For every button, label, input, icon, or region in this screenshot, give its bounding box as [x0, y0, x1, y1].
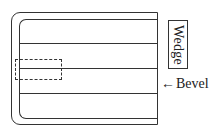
dashed-region [15, 59, 62, 80]
wedge-label-box: Wedge [168, 20, 188, 69]
divider-line-3 [19, 93, 158, 94]
divider-line-1 [19, 43, 158, 44]
diagram-canvas: Wedge ← Bevel [0, 0, 221, 133]
bevel-label: Bevel [176, 76, 209, 92]
wedge-label: Wedge [170, 24, 186, 64]
bevel-callout: ← Bevel [161, 76, 209, 92]
left-arrow-icon: ← [161, 76, 175, 92]
